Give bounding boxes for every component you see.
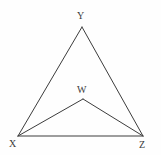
geometry-canvas: [0, 0, 161, 155]
vertex-label-z: Z: [139, 140, 145, 150]
vertex-label-y: Y: [77, 11, 84, 21]
geometry-figure: Y W X Z: [0, 0, 161, 155]
vertex-label-w: W: [77, 85, 86, 95]
segments-group: [18, 27, 143, 136]
segment-yz: [82, 27, 143, 136]
segment-xy: [18, 27, 82, 136]
segment-xw: [18, 99, 83, 136]
vertex-label-x: X: [9, 139, 16, 149]
segment-wz: [83, 99, 143, 136]
